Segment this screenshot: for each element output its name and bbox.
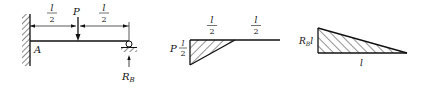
- svg-text:l: l: [103, 3, 106, 13]
- svg-text:P: P: [169, 43, 177, 54]
- svg-text:2: 2: [49, 15, 54, 24]
- load-label-p: P: [72, 6, 80, 17]
- svg-text:2: 2: [253, 27, 258, 36]
- svg-text:l: l: [255, 15, 258, 25]
- svg-text:l: l: [51, 3, 54, 13]
- value-label: RBl: [298, 36, 313, 47]
- svg-text:l: l: [211, 15, 214, 25]
- diagram-canvas: A P l 2 l 2 RB P l 2 l 2 l 2 RBl l: [0, 0, 426, 91]
- beam-figure: A P l 2 l 2 RB: [22, 3, 137, 84]
- svg-text:2: 2: [101, 15, 106, 24]
- svg-text:2: 2: [180, 49, 185, 58]
- support-label-a: A: [33, 44, 41, 55]
- svg-text:2: 2: [209, 27, 214, 36]
- svg-text:l: l: [182, 39, 185, 48]
- fixed-wall-hatch: [22, 14, 30, 66]
- moment-diagram-reaction: RBl l: [298, 28, 407, 68]
- roller-support-icon: [126, 41, 132, 47]
- reaction-label: RB: [121, 71, 135, 84]
- moment-diagram-load: P l 2 l 2 l 2: [169, 15, 280, 65]
- length-label: l: [360, 58, 363, 68]
